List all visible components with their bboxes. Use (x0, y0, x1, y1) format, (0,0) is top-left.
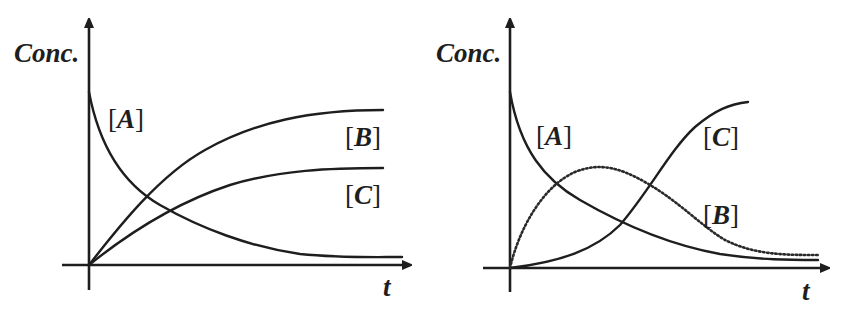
label-c: [C] (345, 180, 381, 210)
label-a: [A] (108, 104, 144, 134)
consecutive-reaction-chart: Conc. t [A] [C] [B] (436, 22, 826, 306)
y-axis-label: Conc. (14, 38, 79, 68)
curve-a (510, 92, 818, 260)
label-b: [B] (345, 122, 381, 152)
label-a: [A] (536, 121, 572, 151)
kinetics-figure: Conc. t [A] [B] [C] Conc. t (0, 0, 846, 311)
x-axis-label: t (383, 272, 392, 302)
label-b: [B] (703, 200, 739, 230)
figure-canvas: Conc. t [A] [B] [C] Conc. t (0, 0, 846, 311)
y-axis-label: Conc. (436, 38, 501, 68)
label-c: [C] (703, 122, 739, 152)
parallel-reaction-chart: Conc. t [A] [B] [C] (14, 22, 408, 302)
x-axis-label: t (802, 276, 811, 306)
curve-c (89, 168, 383, 265)
